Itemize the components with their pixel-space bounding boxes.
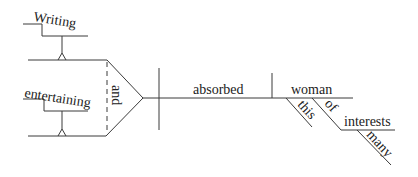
modifier-many-text: many (364, 127, 396, 160)
verb-text: absorbed (193, 82, 244, 97)
object-text: woman (291, 82, 332, 97)
gerund-entertaining-pedestal (58, 129, 66, 136)
gerund-writing-text: Writing (33, 9, 78, 31)
sentence-diagram: Writing entertaining and absorbed woman … (0, 0, 418, 177)
modifier-this-text: this (295, 97, 320, 122)
gerund-entertaining-text: entertaining (24, 85, 92, 110)
gerund-writing-pedestal (58, 53, 66, 60)
gerund-entertaining-group: entertaining (23, 85, 92, 136)
gerund-writing-group: Writing (23, 9, 88, 60)
conjunction-text: and (109, 85, 124, 105)
prep-object-text: interests (344, 114, 391, 129)
